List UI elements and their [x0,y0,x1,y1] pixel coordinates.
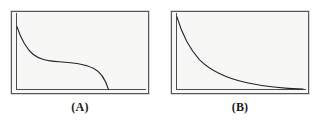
exponential-decay-curve [177,17,303,89]
plot-a-svg [12,12,148,93]
figure-container: (A) (B) [0,0,319,127]
plot-panel-b [171,11,309,94]
panel-b-caption: (B) [171,100,309,114]
panel-a-caption: (A) [11,100,149,114]
plot-panel-a [11,11,149,94]
plot-b-svg [172,12,308,93]
reverse-sigmoid-decay-curve [17,27,109,90]
